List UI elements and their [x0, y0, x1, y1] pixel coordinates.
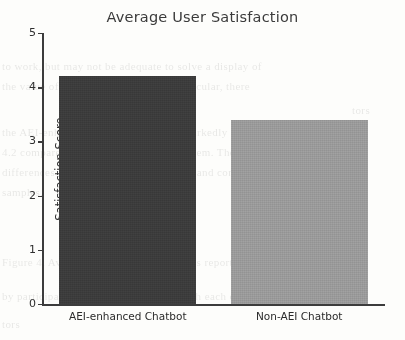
- plot-area: Satisfaction Score 012345 AEI-enhanced C…: [42, 33, 385, 304]
- y-axis-tick-label: 4: [12, 80, 36, 93]
- y-axis-tick: [38, 33, 43, 34]
- y-axis-tick-label: 0: [12, 297, 36, 310]
- bar-chart-figure: Average User Satisfaction Satisfaction S…: [0, 0, 405, 340]
- y-axis-tick-label: 1: [12, 243, 36, 256]
- y-axis-tick: [38, 250, 43, 251]
- chart-title: Average User Satisfaction: [0, 9, 405, 25]
- x-axis-line: [42, 304, 385, 306]
- bar-fill: [59, 76, 196, 304]
- y-axis-tick: [38, 141, 43, 142]
- x-axis-tick-label: Non-AEI Chatbot: [214, 310, 386, 322]
- y-axis-tick: [38, 304, 43, 305]
- y-axis-tick-label: 2: [12, 189, 36, 202]
- y-axis-tick-label: 5: [12, 26, 36, 39]
- y-axis-tick: [38, 196, 43, 197]
- y-axis-line: [42, 33, 44, 304]
- y-axis-tick: [38, 87, 43, 88]
- bar-fill: [231, 120, 368, 304]
- x-axis-tick-label: AEI-enhanced Chatbot: [42, 310, 214, 322]
- bar[interactable]: [59, 76, 196, 304]
- y-axis-tick-label: 3: [12, 134, 36, 147]
- bar[interactable]: [231, 120, 368, 304]
